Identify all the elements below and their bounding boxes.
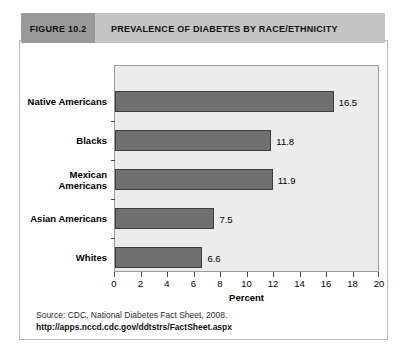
- bar: [115, 130, 271, 151]
- bar: [115, 208, 214, 229]
- bar-category-label: MexicanAmericans: [58, 168, 107, 191]
- figure-title-block: PREVALENCE OF DIABETES BY RACE/ETHNICITY: [95, 13, 385, 43]
- x-axis-tick: [353, 272, 354, 277]
- source-block: Source: CDC, National Diabetes Fact Shee…: [36, 309, 366, 333]
- bar: [115, 247, 202, 268]
- figure-container: Native Americans16.5Blacks11.8MexicanAme…: [19, 40, 388, 340]
- figure-number-block: FIGURE 10.2: [21, 13, 95, 43]
- source-url[interactable]: http://apps.nccd.cdc.gov/ddtstrs/FactShe…: [36, 321, 366, 333]
- x-axis-tick: [141, 272, 142, 277]
- x-axis-tick-label: 20: [374, 278, 385, 289]
- x-axis-tick: [378, 272, 379, 277]
- figure-title: PREVALENCE OF DIABETES BY RACE/ETHNICITY: [111, 23, 338, 34]
- bar-value-label: 11.8: [276, 135, 294, 146]
- bar-value-label: 7.5: [219, 213, 232, 224]
- bar: [115, 169, 273, 190]
- bar-value-label: 11.9: [278, 174, 296, 185]
- x-axis-tick: [300, 272, 301, 277]
- figure-header: FIGURE 10.2 PREVALENCE OF DIABETES BY RA…: [21, 13, 385, 43]
- x-axis-tick-label: 14: [294, 278, 305, 289]
- x-axis-tick: [247, 272, 248, 277]
- bar-category-label: Whites: [76, 252, 107, 264]
- x-axis: 02468101214161820 Percent: [114, 272, 379, 312]
- figure-number-label: FIGURE 10.2: [30, 23, 87, 34]
- bar-value-label: 16.5: [339, 96, 358, 107]
- x-axis-tick: [220, 272, 221, 277]
- bar-row: MexicanAmericans11.9: [115, 160, 378, 199]
- x-axis-tick-label: 4: [164, 278, 169, 289]
- bar-value-label: 6.6: [207, 252, 220, 263]
- x-axis-tick-label: 8: [217, 278, 222, 289]
- bar-row: Asian Americans7.5: [115, 199, 378, 238]
- bar: [115, 91, 334, 112]
- x-axis-title: Percent: [114, 292, 379, 303]
- x-axis-tick: [326, 272, 327, 277]
- x-axis-tick: [273, 272, 274, 277]
- x-axis-tick-label: 18: [347, 278, 358, 289]
- x-axis-tick-label: 2: [138, 278, 143, 289]
- bar-row: Blacks11.8: [115, 121, 378, 160]
- x-axis-tick-label: 16: [321, 278, 332, 289]
- plot-frame: Native Americans16.5Blacks11.8MexicanAme…: [114, 65, 379, 272]
- bar-category-label: Blacks: [76, 135, 107, 147]
- x-axis-tick-label: 12: [268, 278, 279, 289]
- bar-category-label: Native Americans: [28, 96, 107, 108]
- x-axis-tick: [167, 272, 168, 277]
- x-axis-tick: [194, 272, 195, 277]
- source-citation: Source: CDC, National Diabetes Fact Shee…: [36, 309, 366, 321]
- bar-row: Native Americans16.5: [115, 82, 378, 121]
- x-axis-tick-label: 10: [241, 278, 252, 289]
- x-axis-tick-label: 6: [191, 278, 196, 289]
- chart-area: Native Americans16.5Blacks11.8MexicanAme…: [20, 63, 389, 315]
- x-axis-tick-label: 0: [111, 278, 116, 289]
- bar-category-label: Asian Americans: [30, 213, 107, 225]
- x-axis-tick: [114, 272, 115, 277]
